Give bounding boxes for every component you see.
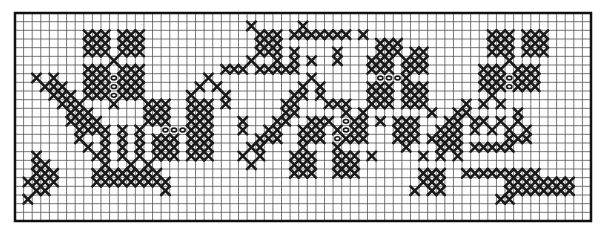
cross-stitch xyxy=(496,100,505,109)
cross-stitch xyxy=(153,108,162,117)
cross-stitch xyxy=(67,108,76,117)
cross-stitch xyxy=(522,186,531,195)
cross-stitch xyxy=(522,82,531,91)
bead-stitch xyxy=(507,76,512,80)
cross-stitch xyxy=(565,178,574,187)
cross-stitch xyxy=(92,178,101,187)
cross-stitch xyxy=(135,48,144,57)
cross-stitch xyxy=(264,126,273,135)
cross-stitch xyxy=(531,82,540,91)
cross-stitch xyxy=(548,178,557,187)
cross-stitch xyxy=(299,82,308,91)
cross-stitch xyxy=(479,117,488,126)
cross-stitch xyxy=(496,195,505,204)
cross-stitch xyxy=(367,91,376,100)
cross-stitch xyxy=(110,178,119,187)
cross-stitch xyxy=(462,100,471,109)
cross-stitch xyxy=(410,117,419,126)
cross-stitch xyxy=(488,65,497,74)
cross-stitch xyxy=(196,100,205,109)
cross-stitch xyxy=(539,48,548,57)
cross-stitch xyxy=(170,143,179,152)
cross-stitch xyxy=(342,160,351,169)
cross-stitch xyxy=(402,126,411,135)
cross-stitch xyxy=(316,117,325,126)
cross-stitch xyxy=(290,160,299,169)
cross-stitch xyxy=(428,178,437,187)
cross-stitch xyxy=(144,117,153,126)
cross-stitch xyxy=(92,126,101,135)
cross-stitch xyxy=(539,178,548,187)
cross-stitch xyxy=(58,82,67,91)
cross-stitch xyxy=(436,186,445,195)
cross-stitch xyxy=(539,39,548,48)
cross-stitch xyxy=(196,134,205,143)
cross-stitch xyxy=(84,48,93,57)
cross-stitch xyxy=(84,91,93,100)
cross-stitch xyxy=(239,117,248,126)
cross-stitch xyxy=(187,134,196,143)
cross-stitch xyxy=(393,48,402,57)
cross-stitch xyxy=(488,169,497,178)
cross-stitch xyxy=(153,134,162,143)
cross-stitch xyxy=(290,65,299,74)
cross-stitch xyxy=(247,160,256,169)
cross-stitch xyxy=(359,134,368,143)
cross-stitch xyxy=(522,178,531,187)
cross-stitch xyxy=(84,126,93,135)
cross-stitch xyxy=(299,30,308,39)
cross-stitch xyxy=(144,169,153,178)
cross-stitch xyxy=(333,160,342,169)
cross-stitch xyxy=(505,126,514,135)
cross-stitch xyxy=(282,65,291,74)
cross-stitch xyxy=(282,117,291,126)
cross-stitch xyxy=(187,152,196,161)
cross-stitch xyxy=(436,126,445,135)
cross-stitch xyxy=(127,65,136,74)
cross-stitch xyxy=(342,169,351,178)
cross-stitch xyxy=(187,117,196,126)
cross-stitch xyxy=(514,134,523,143)
cross-stitch xyxy=(58,91,67,100)
cross-stitch xyxy=(144,100,153,109)
cross-stitch xyxy=(127,30,136,39)
cross-stitch xyxy=(402,100,411,109)
cross-stitch xyxy=(496,65,505,74)
cross-stitch xyxy=(316,126,325,135)
cross-stitch xyxy=(273,30,282,39)
cross-stitch xyxy=(522,30,531,39)
cross-stitch xyxy=(101,30,110,39)
cross-stitch xyxy=(445,134,454,143)
cross-stitch xyxy=(101,82,110,91)
cross-stitch xyxy=(299,134,308,143)
cross-stitch xyxy=(376,56,385,65)
cross-stitch xyxy=(299,143,308,152)
cross-stitch xyxy=(428,134,437,143)
cross-stitch xyxy=(161,178,170,187)
cross-stitch xyxy=(58,100,67,109)
cross-stitch xyxy=(402,143,411,152)
cross-stitch xyxy=(496,30,505,39)
cross-stitch xyxy=(187,108,196,117)
cross-stitch xyxy=(505,143,514,152)
cross-stitch xyxy=(505,195,514,204)
cross-stitch xyxy=(531,30,540,39)
cross-stitch xyxy=(419,91,428,100)
cross-stitch xyxy=(144,178,153,187)
cross-stitch xyxy=(479,143,488,152)
cross-stitch xyxy=(514,186,523,195)
cross-stitch xyxy=(118,74,127,83)
cross-stitch xyxy=(273,134,282,143)
cross-stitch xyxy=(505,30,514,39)
cross-stitch xyxy=(376,82,385,91)
cross-stitch xyxy=(187,91,196,100)
cross-stitch xyxy=(419,82,428,91)
cross-stitch xyxy=(204,74,213,83)
cross-stitch xyxy=(488,39,497,48)
cross-stitch xyxy=(92,169,101,178)
cross-stitch xyxy=(75,117,84,126)
cross-stitch xyxy=(118,152,127,161)
cross-stitch xyxy=(273,65,282,74)
cross-stitch xyxy=(436,152,445,161)
cross-stitch xyxy=(453,152,462,161)
